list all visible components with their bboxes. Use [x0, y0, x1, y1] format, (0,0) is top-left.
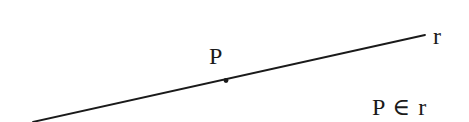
membership-relation: P ∈ r: [372, 95, 427, 119]
point-p: [224, 78, 229, 83]
line-r: [33, 35, 425, 122]
point-label-p: P: [209, 44, 222, 68]
line-label-r: r: [433, 24, 441, 48]
